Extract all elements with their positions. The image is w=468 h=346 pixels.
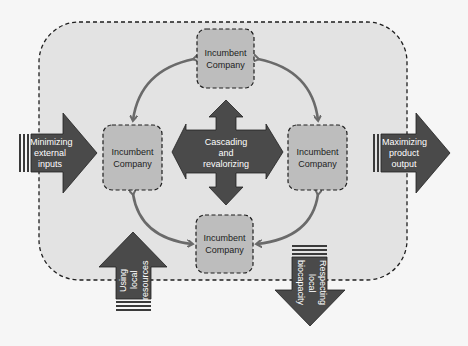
company-label-top: Incumbent Company <box>197 29 254 88</box>
company-label-right: Incumbent Company <box>291 125 344 190</box>
input-label: Minimizing external inputs <box>30 137 70 170</box>
output-label: Maximizing product output <box>382 137 426 170</box>
company-label-bottom: Incumbent Company <box>196 215 253 273</box>
center-label: Cascading and revalorizing <box>198 137 254 170</box>
biocapacity-label: Respecting local biocapacity <box>288 258 328 308</box>
company-label-left: Incumbent Company <box>106 125 159 190</box>
local-resources-label: Using local resources <box>118 258 148 302</box>
